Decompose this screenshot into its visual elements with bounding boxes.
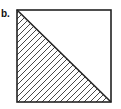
square-diagram [0, 0, 121, 109]
diagonal-line [17, 10, 111, 102]
hatching [0, 16, 17, 109]
